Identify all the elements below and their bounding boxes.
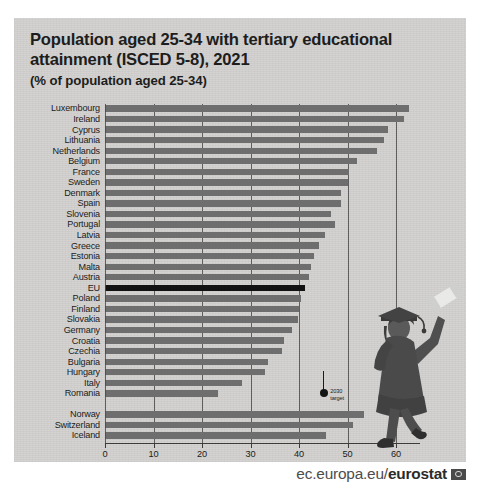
page-title-line-2: attainment (ISCED 5-8), 2021 xyxy=(30,50,450,70)
page-title-line-1: Population aged 25-34 with tertiary educ… xyxy=(30,30,450,50)
bar xyxy=(105,411,364,417)
category-label: Italy xyxy=(14,379,100,389)
y-axis-line xyxy=(105,104,106,443)
bar xyxy=(105,105,409,111)
x-axis-tick xyxy=(154,444,155,448)
bar xyxy=(105,158,357,164)
bar xyxy=(105,348,282,354)
category-label: Norway xyxy=(14,410,100,420)
x-axis-tick xyxy=(251,444,252,448)
eurostat-url[interactable]: ec.europa.eu/eurostat xyxy=(296,465,447,483)
bar xyxy=(105,306,299,312)
bar xyxy=(105,148,377,154)
category-label: Slovakia xyxy=(14,315,100,325)
bar xyxy=(105,242,319,248)
category-label: Hungary xyxy=(14,368,100,378)
x-axis-tick-label: 50 xyxy=(336,449,360,459)
bar xyxy=(105,264,311,270)
category-label: Austria xyxy=(14,273,100,283)
chart-title-block: Population aged 25-34 with tertiary educ… xyxy=(30,30,450,88)
bar xyxy=(105,221,335,227)
x-axis-tick xyxy=(202,444,203,448)
x-axis-tick-label: 10 xyxy=(142,449,166,459)
category-label: Sweden xyxy=(14,178,100,188)
bar xyxy=(105,337,284,343)
target-marker-dot xyxy=(320,389,328,397)
chart-subtitle: (% of population aged 25-34) xyxy=(30,73,450,88)
category-label: Bulgaria xyxy=(14,358,100,368)
x-axis-tick-label: 20 xyxy=(190,449,214,459)
bar xyxy=(105,137,384,143)
chart-card: Population aged 25-34 with tertiary educ… xyxy=(14,18,466,462)
category-label: Ireland xyxy=(14,115,100,125)
bar xyxy=(105,126,388,132)
bar xyxy=(105,316,298,322)
footer: ec.europa.eu/eurostat xyxy=(296,463,466,485)
x-axis-tick-label: 40 xyxy=(287,449,311,459)
bar xyxy=(105,359,268,365)
bar xyxy=(105,116,404,122)
category-label: Iceland xyxy=(14,431,100,441)
bar xyxy=(105,169,349,175)
bar xyxy=(105,390,218,396)
category-label: Greece xyxy=(14,242,100,252)
bar xyxy=(105,295,301,301)
x-axis-tick xyxy=(348,444,349,448)
bar xyxy=(105,200,341,206)
category-label: Poland xyxy=(14,294,100,304)
category-label: Finland xyxy=(14,305,100,315)
bar xyxy=(105,380,242,386)
graduate-illustration xyxy=(366,276,480,462)
category-label: Luxembourg xyxy=(14,104,100,114)
x-axis-tick-label: 0 xyxy=(93,449,117,459)
bar xyxy=(105,285,305,291)
bar xyxy=(105,190,341,196)
bar xyxy=(105,179,348,185)
bar xyxy=(105,327,292,333)
bar xyxy=(105,274,309,280)
category-label: Lithuania xyxy=(14,136,100,146)
category-label: Netherlands xyxy=(14,147,100,157)
category-label: Latvia xyxy=(14,231,100,241)
bar xyxy=(105,369,265,375)
category-label: EU xyxy=(14,284,100,294)
bar xyxy=(105,422,353,428)
x-axis-tick xyxy=(299,444,300,448)
category-label: Romania xyxy=(14,389,100,399)
category-label: Portugal xyxy=(14,220,100,230)
category-label: Malta xyxy=(14,263,100,273)
bar xyxy=(105,211,331,217)
eu-flag-icon xyxy=(451,469,466,480)
bar xyxy=(105,432,326,438)
category-label: Belgium xyxy=(14,157,100,167)
category-label: Spain xyxy=(14,199,100,209)
category-label: France xyxy=(14,168,100,178)
x-axis-tick-label: 30 xyxy=(239,449,263,459)
x-axis-tick xyxy=(105,444,106,448)
bar xyxy=(105,232,325,238)
category-label: Germany xyxy=(14,326,100,336)
category-label: Slovenia xyxy=(14,210,100,220)
category-label: Denmark xyxy=(14,189,100,199)
bar xyxy=(105,253,314,259)
category-label: Czechia xyxy=(14,347,100,357)
category-label: Estonia xyxy=(14,252,100,262)
target-stem xyxy=(323,371,324,391)
category-label: Croatia xyxy=(14,337,100,347)
category-label: Cyprus xyxy=(14,126,100,136)
target-annotation-label: 2030 target xyxy=(330,388,344,400)
category-label: Switzerland xyxy=(14,421,100,431)
gridline xyxy=(348,104,349,443)
